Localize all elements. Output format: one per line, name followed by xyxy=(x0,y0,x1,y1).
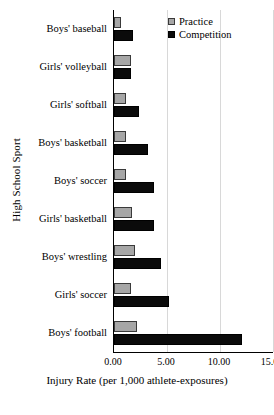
category-label: Boys' basketball xyxy=(22,124,110,162)
bar-groups xyxy=(114,10,273,352)
bar-practice xyxy=(114,283,131,294)
bar-practice xyxy=(114,17,121,28)
x-axis-tick-label: 10.00 xyxy=(208,356,231,367)
x-axis-tick-label: 5.00 xyxy=(157,356,175,367)
bar-group xyxy=(114,162,273,200)
x-axis-title: Injury Rate (per 1,000 athlete-exposures… xyxy=(0,374,274,386)
category-label: Girls' soccer xyxy=(22,276,110,314)
bar-practice xyxy=(114,321,137,332)
bar-group xyxy=(114,238,273,276)
y-axis-title-text: High School Sport xyxy=(10,138,22,222)
bar-practice xyxy=(114,245,135,256)
category-label: Boys' baseball xyxy=(22,10,110,48)
bar-competition xyxy=(114,182,154,193)
gridline xyxy=(273,10,274,352)
plot-area xyxy=(113,10,273,353)
bar-group xyxy=(114,276,273,314)
bar-competition xyxy=(114,68,131,79)
bar-group xyxy=(114,124,273,162)
bar-competition xyxy=(114,296,169,307)
bar-practice xyxy=(114,55,131,66)
bar-practice xyxy=(114,169,126,180)
bar-competition xyxy=(114,334,242,345)
category-label: Boys' wrestling xyxy=(22,238,110,276)
x-axis-tick-label: 0.00 xyxy=(104,356,122,367)
bar-practice xyxy=(114,207,132,218)
bar-competition xyxy=(114,258,161,269)
bar-group xyxy=(114,200,273,238)
x-axis-tick-label: 15.00 xyxy=(261,356,274,367)
bar-competition xyxy=(114,106,139,117)
category-axis-labels: Boys' baseball Girls' volleyball Girls' … xyxy=(22,10,110,352)
bar-competition xyxy=(114,30,133,41)
bar-group xyxy=(114,48,273,86)
legend-item-competition: Competition xyxy=(168,29,232,40)
bar-practice xyxy=(114,131,126,142)
category-label: Boys' football xyxy=(22,314,110,352)
legend-label-competition: Competition xyxy=(179,29,232,40)
category-label: Girls' volleyball xyxy=(22,48,110,86)
category-label: Girls' softball xyxy=(22,86,110,124)
bar-competition xyxy=(114,144,148,155)
category-label: Boys' soccer xyxy=(22,162,110,200)
chart-legend: Practice Competition xyxy=(168,16,232,40)
legend-swatch-practice-icon xyxy=(168,18,175,25)
bar-practice xyxy=(114,93,126,104)
legend-label-practice: Practice xyxy=(179,16,213,27)
legend-item-practice: Practice xyxy=(168,16,232,27)
legend-swatch-competition-icon xyxy=(168,31,175,38)
injury-rate-bar-chart: High School Sport Boys' baseball Girls' … xyxy=(0,0,274,415)
bar-competition xyxy=(114,220,154,231)
bar-group xyxy=(114,86,273,124)
bar-group xyxy=(114,314,273,352)
category-label: Girls' basketball xyxy=(22,200,110,238)
x-axis-tick-labels: 0.005.0010.0015.00 xyxy=(113,356,272,372)
